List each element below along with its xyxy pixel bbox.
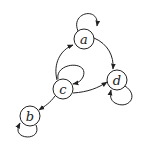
node-a: a (74, 29, 94, 49)
node-b: b (20, 106, 40, 126)
node-d-label: d (113, 73, 121, 88)
node-a-label: a (80, 32, 88, 47)
node-c: c (53, 79, 73, 99)
graph-diagram: a b c d (0, 0, 143, 157)
edge-a-a (77, 14, 98, 31)
edge-c-b (39, 96, 55, 110)
node-b-label: b (26, 109, 34, 124)
node-c-label: c (59, 82, 67, 97)
edge-c-d (73, 82, 107, 93)
node-d: d (107, 70, 127, 90)
edge-a-d (94, 38, 113, 69)
